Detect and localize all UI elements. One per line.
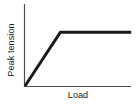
axes-lines	[24, 4, 131, 87]
y-axis-label: Peak tension	[6, 13, 16, 87]
x-axis-label: Load	[48, 90, 108, 100]
data-series-line	[25, 32, 131, 86]
chart-plot-area	[0, 0, 139, 104]
chart-figure: Peak tension Load	[0, 0, 139, 104]
peak-tension-curve	[25, 32, 131, 86]
